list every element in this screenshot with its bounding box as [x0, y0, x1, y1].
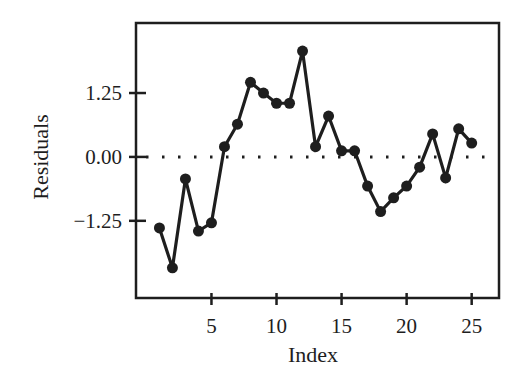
x-tick-label: 25	[461, 314, 482, 338]
data-point-marker	[466, 138, 477, 149]
x-tick-label: 10	[266, 314, 287, 338]
data-point-marker	[414, 162, 425, 173]
data-point-marker	[193, 226, 204, 237]
data-point-marker	[271, 98, 282, 109]
data-point-marker	[388, 192, 399, 203]
data-point-marker	[310, 141, 321, 152]
residuals-series	[154, 46, 477, 274]
data-point-marker	[297, 46, 308, 57]
data-point-marker	[375, 206, 386, 217]
x-tick-label: 20	[396, 314, 417, 338]
data-point-marker	[349, 145, 360, 156]
data-point-marker	[453, 123, 464, 134]
data-point-marker	[232, 119, 243, 130]
data-point-marker	[362, 181, 373, 192]
data-point-marker	[323, 111, 334, 122]
data-point-marker	[401, 181, 412, 192]
data-point-marker	[154, 222, 165, 233]
data-point-marker	[284, 98, 295, 109]
data-point-marker	[427, 128, 438, 139]
data-point-marker	[180, 173, 191, 184]
data-point-marker	[219, 141, 230, 152]
y-axis-title: Residuals	[28, 114, 53, 200]
plot-frame	[136, 23, 499, 298]
y-tick-label: 0.00	[85, 145, 122, 169]
x-tick-label: 15	[331, 314, 352, 338]
data-point-marker	[336, 145, 347, 156]
y-tick-label: −1.25	[73, 209, 122, 233]
plot-border	[136, 23, 499, 298]
x-axis-ticks: 510152025	[206, 293, 482, 338]
residuals-index-plot: 510152025 1.250.00−1.25 Index Residuals	[0, 0, 525, 387]
x-axis-title: Index	[288, 342, 338, 367]
y-tick-label: 1.25	[85, 81, 122, 105]
x-tick-label: 5	[206, 314, 217, 338]
residuals-line	[159, 51, 471, 268]
data-point-marker	[440, 172, 451, 183]
data-point-marker	[167, 262, 178, 273]
data-point-marker	[258, 88, 269, 99]
data-point-marker	[206, 217, 217, 228]
data-point-marker	[245, 77, 256, 88]
